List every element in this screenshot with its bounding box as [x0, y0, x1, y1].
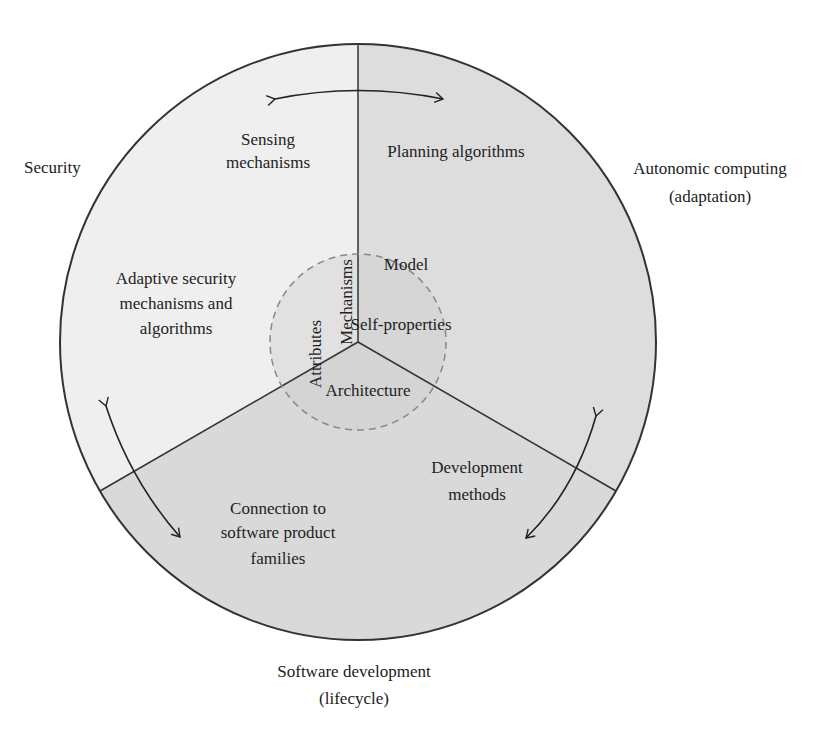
sensing-mechanisms-line1: Sensing [241, 130, 295, 149]
connection-product-families-line3: families [251, 549, 306, 568]
software-label-line2: (lifecycle) [319, 689, 389, 708]
connection-product-families-line1: Connection to [230, 499, 326, 518]
development-methods-line1: Development [431, 458, 523, 477]
attributes-label: Attributes [306, 320, 325, 388]
adaptive-security-line2: mechanisms and [120, 294, 233, 313]
development-methods-line2: methods [448, 485, 506, 504]
autonomic-label-line1: Autonomic computing [633, 159, 787, 178]
model-label: Model [384, 255, 429, 274]
adaptive-security-line3: algorithms [140, 319, 213, 338]
connection-product-families-line2: software product [221, 523, 336, 542]
software-label-line1: Software development [277, 662, 431, 681]
planning-algorithms-label: Planning algorithms [387, 142, 524, 161]
autonomic-label-line2: (adaptation) [669, 187, 751, 206]
security-label: Security [24, 158, 81, 177]
architecture-label: Architecture [326, 381, 411, 400]
self-adaptive-security-diagram: Security Autonomic computing (adaptation… [0, 0, 828, 736]
adaptive-security-line1: Adaptive security [116, 269, 237, 288]
sensing-mechanisms-line2: mechanisms [226, 153, 310, 172]
self-properties-label: Self-properties [350, 315, 451, 334]
